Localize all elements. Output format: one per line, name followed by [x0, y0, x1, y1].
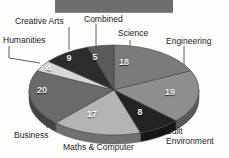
category-label-creative-arts: Creative Arts [15, 16, 64, 26]
category-label-business: Business [14, 130, 49, 140]
slice-value-label: 19 [165, 87, 175, 97]
leader-line [9, 46, 40, 63]
slice-value-label: 8 [137, 107, 142, 117]
pie-chart: 181981720495 ScienceEngineeringBuilt Env… [0, 0, 229, 158]
slice-value-label: 18 [119, 57, 129, 67]
category-label-science: Science [118, 28, 148, 38]
slice-value-label: 4 [46, 63, 51, 73]
chart-screenshot: 181981720495 ScienceEngineeringBuilt Env… [0, 0, 229, 158]
category-label-combined: Combined [84, 14, 123, 24]
category-label-engineering: Engineering [166, 36, 211, 46]
slice-value-label: 20 [37, 85, 47, 95]
slice-value-label: 9 [66, 53, 71, 63]
slice-value-label: 17 [87, 109, 97, 119]
slice-value-label: 5 [92, 52, 97, 62]
category-label-maths-computer: Maths & Computer [63, 143, 134, 153]
category-label-humanities: Humanities [3, 35, 46, 45]
category-label-built-environment: Built Environment [166, 127, 224, 146]
